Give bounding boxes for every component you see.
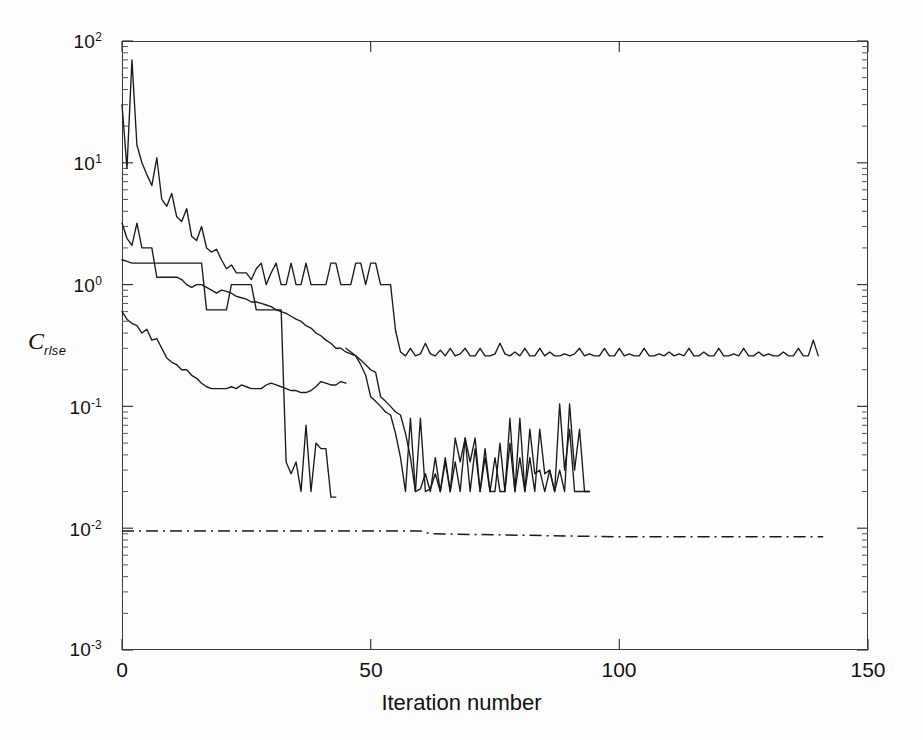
- plot-area-frame: [122, 41, 868, 650]
- x-axis-label: Iteration number: [0, 690, 923, 716]
- x-tick-label-150: 150: [828, 658, 908, 682]
- y-tick-label-1e2: 102: [22, 30, 102, 53]
- y-exp-1em1: -1: [91, 396, 102, 410]
- y-axis-label: Crlse: [28, 328, 66, 358]
- y-tick-label-1em1: 10-1: [22, 396, 102, 419]
- y-axis-label-subscript: rlse: [44, 343, 66, 358]
- y-tick-label-1e1: 101: [22, 152, 102, 175]
- x-tick-label-0: 0: [82, 658, 162, 682]
- y-exp-1e1: 1: [95, 152, 102, 166]
- chart-figure: 102 101 100 10-1 10-2 10-3 0 50 100 150 …: [0, 0, 923, 740]
- y-tick-label-1em2: 10-2: [22, 518, 102, 541]
- y-tick-label-1e0: 100: [22, 274, 102, 297]
- y-exp-1e2: 2: [95, 30, 102, 44]
- x-tick-label-50: 50: [331, 658, 411, 682]
- y-exp-1em2: -2: [91, 518, 102, 532]
- y-exp-1e0: 0: [95, 274, 102, 288]
- y-exp-1em3: -3: [91, 638, 102, 652]
- y-axis-label-base: C: [28, 328, 44, 354]
- x-tick-label-100: 100: [579, 658, 659, 682]
